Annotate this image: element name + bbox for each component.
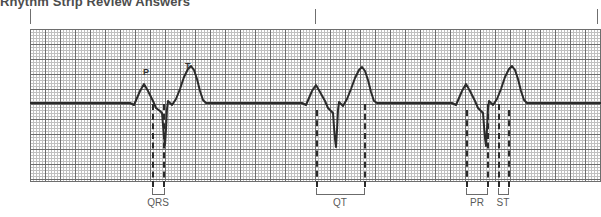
tick-mark-end xyxy=(597,9,598,24)
qrs-interval-bracket xyxy=(152,188,165,195)
qrs-end-line-1 xyxy=(163,104,165,187)
qt-interval-bracket xyxy=(316,188,365,195)
p-wave-label: P xyxy=(143,68,149,77)
st-interval-bracket xyxy=(498,188,509,195)
qrs-onset-line-1 xyxy=(152,104,154,187)
pr-interval-bracket xyxy=(466,188,488,195)
st-end-line-3 xyxy=(508,110,510,187)
qrs-interval-label: QRS xyxy=(128,198,188,208)
t-wave-label: T xyxy=(185,62,191,71)
qt-interval-label: QT xyxy=(310,198,370,208)
qt-end-line-2 xyxy=(364,104,366,187)
qt-onset-line-2 xyxy=(316,110,318,187)
st-onset-line-3 xyxy=(498,104,500,187)
pr-onset-line-3 xyxy=(466,110,468,187)
tick-mark-middle xyxy=(315,9,316,24)
pr-end-line-3 xyxy=(487,104,489,187)
tick-mark-start xyxy=(30,9,31,24)
st-interval-label: ST xyxy=(473,198,533,208)
page-title: Rhythm Strip Review Answers xyxy=(0,0,190,9)
